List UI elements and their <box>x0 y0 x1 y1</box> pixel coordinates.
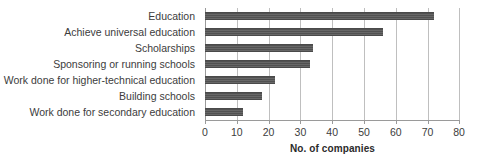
category-label: Achieve universal education <box>64 24 195 40</box>
tick-mark <box>300 120 301 124</box>
category-label: Building schools <box>119 88 195 104</box>
x-tick-label: 0 <box>190 126 220 138</box>
tick-mark <box>428 120 429 124</box>
bar-higher-technical-education <box>205 76 275 84</box>
x-tick-label: 40 <box>317 126 347 138</box>
x-axis-title: No. of companies <box>205 143 460 154</box>
tick-mark <box>364 120 365 124</box>
category-label: Education <box>148 8 195 24</box>
category-label: Scholarships <box>135 40 195 56</box>
bar-education <box>205 12 434 20</box>
bar-secondary-education <box>205 108 243 116</box>
x-tick-label: 60 <box>381 126 411 138</box>
gridline-80 <box>459 8 460 120</box>
horizontal-bar-chart: Education Achieve universal education Sc… <box>0 0 483 167</box>
x-tick-label: 80 <box>444 126 474 138</box>
x-tick-label: 20 <box>254 126 284 138</box>
category-label: Sponsoring or running schools <box>53 56 195 72</box>
tick-mark <box>459 120 460 124</box>
gridline-40 <box>332 8 333 120</box>
plot-area <box>205 8 459 120</box>
category-label: Work done for secondary education <box>29 104 195 120</box>
category-label: Work done for higher-technical education <box>4 72 195 88</box>
x-axis-tick-labels: 0 10 20 30 40 50 60 70 80 <box>205 126 460 140</box>
category-axis: Education Achieve universal education Sc… <box>0 8 200 120</box>
gridline-50 <box>364 8 365 120</box>
bar-achieve-universal-education <box>205 28 383 36</box>
tick-mark <box>205 120 206 124</box>
x-tick-label: 70 <box>413 126 443 138</box>
x-axis-ticks <box>205 120 460 125</box>
x-tick-label: 50 <box>349 126 379 138</box>
tick-mark <box>332 120 333 124</box>
bar-sponsoring-or-running-schools <box>205 60 310 68</box>
gridline-60 <box>396 8 397 120</box>
tick-mark <box>237 120 238 124</box>
tick-mark <box>269 120 270 124</box>
tick-mark <box>396 120 397 124</box>
x-tick-label: 30 <box>285 126 315 138</box>
bar-building-schools <box>205 92 262 100</box>
x-tick-label: 10 <box>222 126 252 138</box>
gridline-70 <box>428 8 429 120</box>
bar-scholarships <box>205 44 313 52</box>
